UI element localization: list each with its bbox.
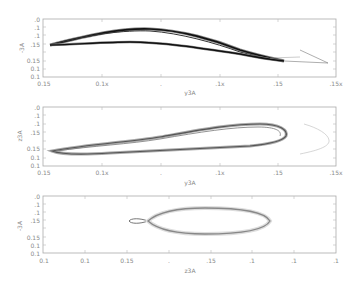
y-tick-label: .15 <box>30 217 40 224</box>
y-tick-label: 0.15 <box>27 57 41 64</box>
x-tick-label: .1x <box>215 80 225 87</box>
x-tick-label: .15x <box>329 80 343 87</box>
y-tick-label: .1 <box>34 201 40 208</box>
plot-3-svg: .0 .1 .1 .15 0.15 0.1 0.1 -3A 0.1 0.1 0.… <box>0 190 359 287</box>
x-tick-label: 0.15 <box>37 80 51 87</box>
x-tick-label: 0.1 <box>39 257 49 264</box>
y-tick-label: 0.1 <box>30 65 40 72</box>
y-tick-label: 0.15 <box>27 145 41 152</box>
y-tick-label: 0.15 <box>27 234 41 241</box>
x-axis-label: y3A <box>184 89 196 96</box>
y-tick-label: .0 <box>34 16 40 23</box>
x-tick-label: .15 <box>206 257 216 264</box>
y-axis-label: -3A <box>16 220 23 231</box>
y-tick-label: .1 <box>34 209 40 216</box>
x-tick-label: . <box>160 80 162 87</box>
plot-panel-2: .0 .1 .1 .15 0.15 0.1 0.1 z3A 0.15 0.1x … <box>0 96 359 190</box>
y-tick-label: .1 <box>34 32 40 39</box>
x-tick-label: .15x <box>329 169 343 176</box>
y-tick-label: 0.1 <box>30 73 40 80</box>
x-tick-label: 0.1 <box>80 257 90 264</box>
y-tick-label: .15 <box>30 129 40 136</box>
x-axis-label: y3A <box>184 179 196 187</box>
x-tick-label: . <box>160 169 162 176</box>
y-axis-label: z3A <box>16 130 23 142</box>
y-tick-label: 0.1 <box>30 250 40 257</box>
x-tick-label: .15 <box>273 169 283 176</box>
trajectory-loop <box>52 124 329 154</box>
x-axis-label: z3A <box>184 267 196 274</box>
y-tick-label: 0.1 <box>30 154 40 161</box>
plot-1-svg: .0 .1 .1 .15 0.15 0.1 0.1 -3A 0.15 0.1x … <box>0 0 359 96</box>
y-tick-label: .1 <box>34 24 40 31</box>
x-tick-label: 0.15 <box>37 169 51 176</box>
trajectory-bundle <box>50 29 328 63</box>
y-tick-label: .15 <box>30 41 40 48</box>
x-tick-label: .15 <box>273 80 283 87</box>
y-tick-label: 0.1 <box>30 162 40 169</box>
x-tick-label: 0.1x <box>95 80 109 87</box>
y-tick-label: 0.1 <box>30 242 40 249</box>
y-tick-label: .0 <box>34 193 40 200</box>
x-tick-label: .1 <box>249 257 255 264</box>
x-tick-label: 0.15 <box>120 257 134 264</box>
y-tick-label: .1 <box>34 112 40 119</box>
y-axis-label: -3A <box>18 42 25 53</box>
plot-panel-3: .0 .1 .1 .15 0.15 0.1 0.1 -3A 0.1 0.1 0.… <box>0 190 359 287</box>
trajectory-ellipse <box>129 208 270 234</box>
plot-2-svg: .0 .1 .1 .15 0.15 0.1 0.1 z3A 0.15 0.1x … <box>0 96 359 190</box>
y-tick-label: .0 <box>34 104 40 111</box>
plot-frame <box>43 107 336 166</box>
x-tick-label: .1x <box>215 169 225 176</box>
plot-frame <box>43 196 336 253</box>
y-tick-label: .1 <box>34 120 40 127</box>
x-tick-label: .1 <box>333 257 339 264</box>
x-tick-label: 0.1x <box>95 169 109 176</box>
x-tick-label: .1 <box>291 257 297 264</box>
plot-panel-1: .0 .1 .1 .15 0.15 0.1 0.1 -3A 0.15 0.1x … <box>0 0 359 96</box>
x-tick-label: . <box>168 257 170 264</box>
